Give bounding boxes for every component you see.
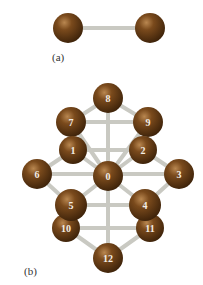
svg-text:12: 12 [103,253,113,264]
svg-text:7: 7 [69,117,74,128]
svg-text:10: 10 [61,223,71,234]
svg-text:4: 4 [143,200,148,211]
atom-7: 7 [56,107,86,137]
atom [135,13,165,43]
atom-12: 12 [93,243,123,273]
cluster-diagram: (a) 8 7 9 1 2 6 [0,0,203,285]
svg-text:3: 3 [177,169,182,180]
svg-text:1: 1 [71,145,76,156]
svg-text:6: 6 [35,169,40,180]
svg-text:11: 11 [145,223,154,234]
atom-9: 9 [133,107,163,137]
atom-2: 2 [129,136,157,164]
atom-5: 5 [55,189,87,221]
svg-text:0: 0 [106,171,111,182]
atom-0: 0 [93,161,123,191]
svg-text:5: 5 [69,200,74,211]
part-b-label: (b) [24,265,37,278]
cluster-atoms: 8 7 9 1 2 6 3 0 10 11 5 4 12 [22,83,194,273]
atom-1: 1 [59,136,87,164]
atom-3: 3 [164,159,194,189]
svg-text:2: 2 [141,145,146,156]
svg-text:9: 9 [146,117,151,128]
atom-8: 8 [93,83,123,113]
atom [53,13,83,43]
atom-4: 4 [129,189,161,221]
part-a-label: (a) [52,51,65,64]
dimer-diagram: (a) [52,13,165,64]
svg-text:8: 8 [106,93,111,104]
atom-6: 6 [22,159,52,189]
